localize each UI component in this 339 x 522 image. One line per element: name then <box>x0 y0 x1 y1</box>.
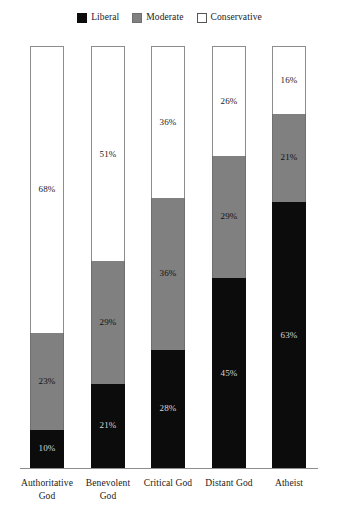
category-label-line1: Atheist <box>259 477 319 490</box>
segment-moderate: 29% <box>212 156 246 278</box>
stacked-bar: 51% 29% 21% <box>91 46 125 468</box>
category-label-line2: God <box>17 490 77 503</box>
segment-moderate: 23% <box>30 333 64 430</box>
segment-value-liberal: 10% <box>38 444 55 453</box>
stacked-bar: 26% 29% 45% <box>212 46 246 468</box>
category-label-authoritative-god: Authoritative God <box>17 477 77 502</box>
category-label-distant-god: Distant God <box>199 477 259 490</box>
category-label-critical-god: Critical God <box>138 477 198 490</box>
segment-moderate: 21% <box>272 114 306 203</box>
segment-value-liberal: 21% <box>99 421 116 430</box>
segment-value-conservative: 68% <box>38 185 55 194</box>
category-label-line1: Authoritative <box>17 477 77 490</box>
segment-value-liberal: 45% <box>220 369 237 378</box>
segment-conservative: 16% <box>272 46 306 114</box>
segment-value-conservative: 36% <box>159 118 176 127</box>
segment-conservative: 26% <box>212 46 246 156</box>
stacked-bar: 36% 36% 28% <box>151 46 185 468</box>
segment-liberal: 21% <box>91 384 125 468</box>
segment-value-moderate: 23% <box>38 377 55 386</box>
segment-moderate: 29% <box>91 261 125 383</box>
stacked-bar: 68% 23% 10% <box>30 46 64 468</box>
category-label-line1: Benevolent <box>78 477 138 490</box>
segment-value-conservative: 26% <box>220 97 237 106</box>
category-label-benevolent-god: Benevolent God <box>78 477 138 502</box>
segment-value-liberal: 63% <box>280 331 297 340</box>
segment-value-moderate: 29% <box>220 212 237 221</box>
segment-liberal: 63% <box>272 202 306 468</box>
category-label-line1: Critical God <box>138 477 198 490</box>
segment-conservative: 68% <box>30 46 64 333</box>
category-label-line1: Distant God <box>199 477 259 490</box>
segment-value-moderate: 29% <box>99 318 116 327</box>
segment-value-moderate: 36% <box>159 269 176 278</box>
x-axis-line <box>20 468 318 469</box>
category-label-line2: God <box>78 490 138 503</box>
segment-conservative: 51% <box>91 46 125 261</box>
segment-conservative: 36% <box>151 46 185 198</box>
segment-liberal: 10% <box>30 430 64 468</box>
segment-liberal: 28% <box>151 350 185 468</box>
stacked-bar: 16% 21% 63% <box>272 46 306 468</box>
segment-moderate: 36% <box>151 198 185 350</box>
segment-value-moderate: 21% <box>280 153 297 162</box>
segment-liberal: 45% <box>212 278 246 468</box>
segment-value-liberal: 28% <box>159 404 176 413</box>
segment-value-conservative: 51% <box>99 150 116 159</box>
category-label-atheist: Atheist <box>259 477 319 490</box>
chart-plot-area: 68% 23% 10% Authoritative God 51% 29% 21… <box>0 0 339 522</box>
segment-value-conservative: 16% <box>280 76 297 85</box>
